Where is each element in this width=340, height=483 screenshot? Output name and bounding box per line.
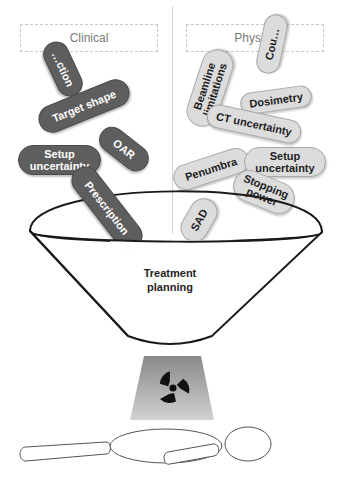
patient-outline-icon [20, 427, 271, 464]
treatment-planning-diagram: Clinical Physics …ction Target shape OAR… [0, 0, 340, 483]
radiation-beam [130, 356, 214, 420]
beam-and-patient [0, 0, 340, 483]
